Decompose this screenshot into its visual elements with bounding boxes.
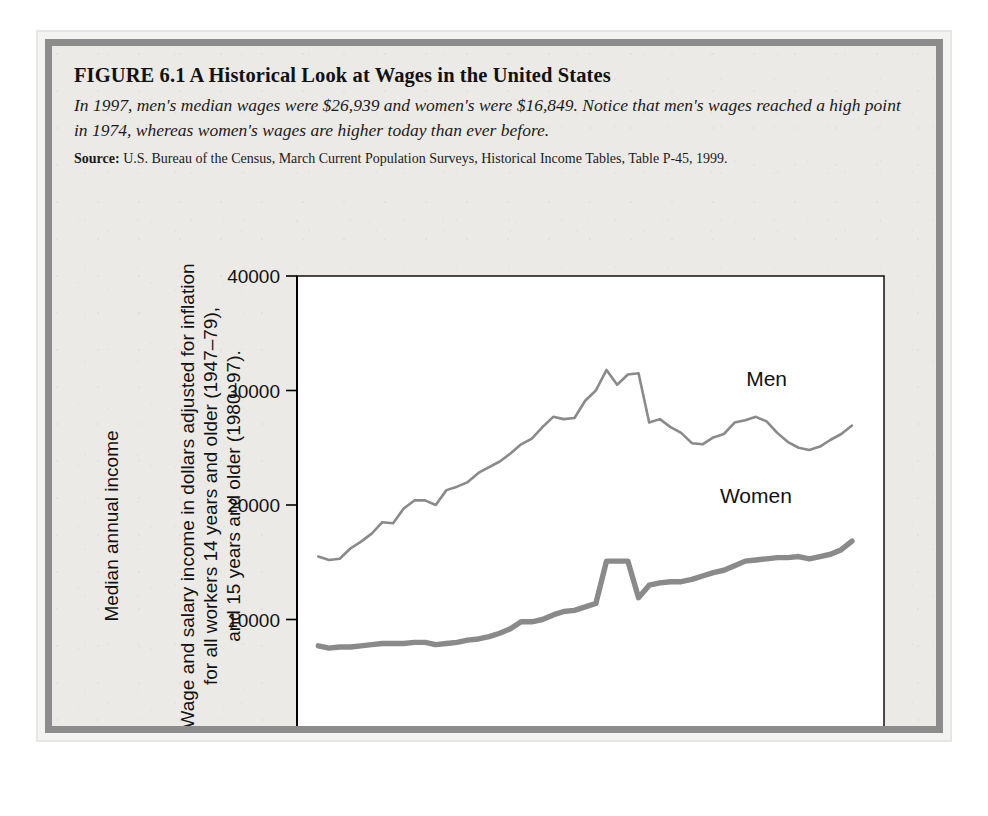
- series-label-women: Women: [720, 484, 792, 507]
- figure-outer-frame: FIGURE 6.1 A Historical Look at Wages in…: [36, 30, 952, 742]
- series-label-men: Men: [746, 367, 787, 390]
- figure-title: FIGURE 6.1 A Historical Look at Wages in…: [74, 64, 914, 87]
- y-axis-title-line3: for all workers 14 years and older (1947…: [200, 307, 221, 685]
- figure-description: In 1997, men's median wages were $26,939…: [74, 93, 914, 142]
- figure-source-line: Source: U.S. Bureau of the Census, March…: [74, 151, 914, 167]
- plot-area: [297, 276, 884, 726]
- source-label: Source:: [74, 151, 120, 166]
- y-axis-title-primary: Median annual income: [101, 430, 122, 621]
- figure-content-area: FIGURE 6.1 A Historical Look at Wages in…: [52, 46, 936, 726]
- wages-line-chart: 010000200003000040000 194519501955196019…: [52, 196, 936, 726]
- y-tick-group: [286, 276, 297, 726]
- y-axis-title-line4: and 15 years and older (1980–97).: [223, 350, 244, 642]
- figure-caption-block: FIGURE 6.1 A Historical Look at Wages in…: [74, 64, 914, 167]
- y-axis-title-line2: Wage and salary income in dollars adjust…: [177, 263, 198, 726]
- figure-gray-band: FIGURE 6.1 A Historical Look at Wages in…: [45, 39, 943, 733]
- source-text: U.S. Bureau of the Census, March Current…: [123, 151, 727, 166]
- chart-region: 010000200003000040000 194519501955196019…: [52, 196, 936, 726]
- y-ticklabel: 0: [269, 724, 280, 726]
- y-ticklabel: 40000: [227, 266, 280, 287]
